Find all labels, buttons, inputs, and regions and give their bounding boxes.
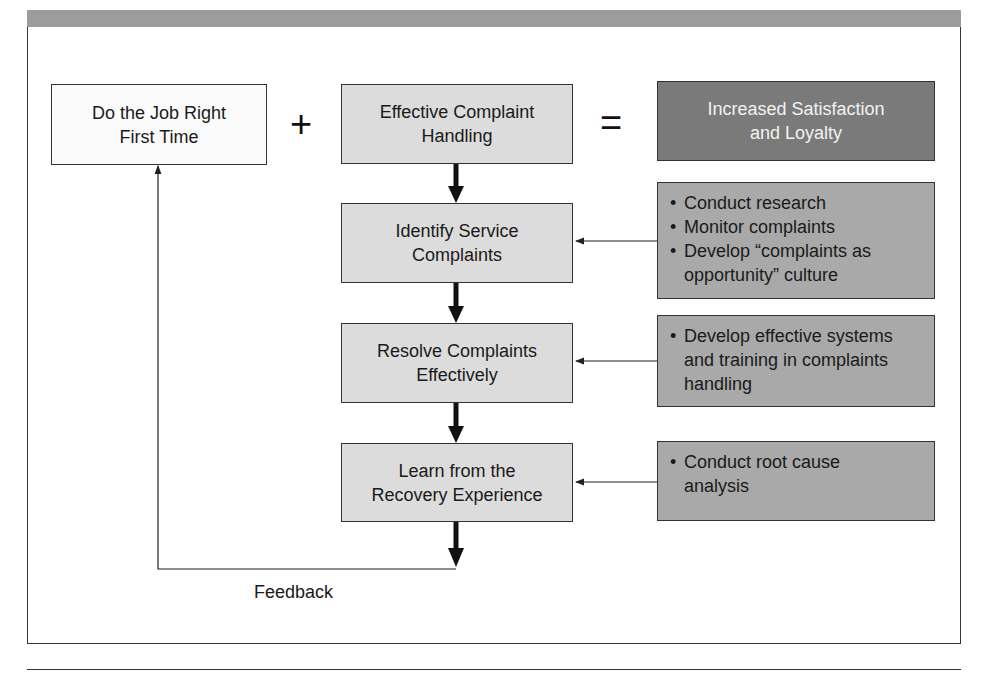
bullet-item: Conduct root cause analysis — [670, 450, 884, 498]
action-box-resolve: Develop effective systems and training i… — [657, 315, 935, 407]
step-learn-from-recovery: Learn from the Recovery Experience — [341, 443, 573, 522]
box-line: Handling — [380, 124, 535, 148]
step-identify-complaints: Identify Service Complaints — [341, 203, 573, 283]
effective-complaint-handling-box: Effective Complaint Handling — [341, 84, 573, 164]
do-job-right-box: Do the Job Right First Time — [51, 84, 267, 165]
bullet-list: Conduct root cause analysis — [670, 450, 884, 498]
box-line: Recovery Experience — [371, 483, 542, 507]
box-line: Resolve Complaints — [377, 339, 537, 363]
equals-operator: = — [600, 104, 622, 142]
action-box-identify: Conduct research Monitor complaints Deve… — [657, 182, 935, 299]
bullet-list: Develop effective systems and training i… — [670, 324, 894, 396]
flow-arrow — [448, 403, 464, 443]
flow-arrow — [448, 163, 464, 203]
bullet-item: Develop “complaints as opportunity” cult… — [670, 239, 914, 287]
bullet-item: Monitor complaints — [670, 215, 914, 239]
flow-arrow — [448, 283, 464, 323]
box-line: Learn from the — [371, 459, 542, 483]
feedback-label: Feedback — [254, 582, 333, 603]
box-line: Identify Service — [395, 219, 518, 243]
box-line: and Loyalty — [707, 121, 884, 145]
bullet-list: Conduct research Monitor complaints Deve… — [670, 191, 914, 287]
plus-operator: + — [290, 105, 312, 143]
box-line: Effective Complaint — [380, 100, 535, 124]
bullet-item: Conduct research — [670, 191, 914, 215]
step-resolve-complaints: Resolve Complaints Effectively — [341, 323, 573, 403]
box-line: First Time — [92, 125, 226, 149]
box-line: Increased Satisfaction — [707, 97, 884, 121]
box-line: Complaints — [395, 243, 518, 267]
flow-arrow — [448, 522, 464, 567]
action-box-learn: Conduct root cause analysis — [657, 441, 935, 521]
increased-satisfaction-box: Increased Satisfaction and Loyalty — [657, 81, 935, 161]
box-line: Do the Job Right — [92, 101, 226, 125]
bullet-item: Develop effective systems and training i… — [670, 324, 894, 396]
box-line: Effectively — [377, 363, 537, 387]
